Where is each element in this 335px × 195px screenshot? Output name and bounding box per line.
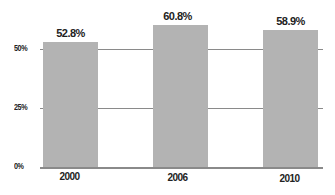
- bar-2006: [153, 25, 208, 168]
- y-tick-0: 0%: [14, 161, 33, 171]
- value-label-2000: 52.8%: [43, 27, 98, 39]
- bar-2000: [43, 42, 98, 168]
- x-axis-line: [40, 167, 323, 169]
- y-tick-25: 25%: [14, 102, 33, 112]
- x-label-2000: 2000: [42, 171, 97, 182]
- value-label-2010: 58.9%: [263, 15, 318, 27]
- y-tick-50: 50%: [14, 43, 33, 53]
- bar-2010: [263, 30, 318, 168]
- bar-chart: 50% 25% 0% 52.8% 60.8% 58.9% 2000 2006 2…: [0, 0, 335, 195]
- value-label-2006: 60.8%: [150, 10, 205, 22]
- x-label-2006: 2006: [150, 172, 205, 183]
- x-label-2010: 2010: [262, 173, 317, 184]
